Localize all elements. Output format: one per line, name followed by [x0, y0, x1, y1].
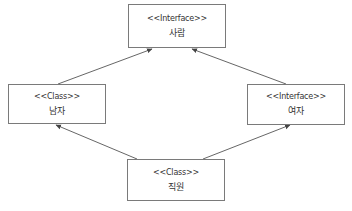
class-box-male: <<Class>> 남자: [8, 84, 106, 124]
arrow-staff-to-female: [203, 125, 290, 159]
arrow-female-to-person: [192, 49, 286, 84]
class-box-staff: <<Class>> 직원: [127, 159, 225, 201]
entity-name: 사람: [169, 27, 185, 40]
interface-box-person: <<Interface>> 사람: [128, 4, 226, 48]
arrow-male-to-person: [58, 49, 152, 84]
stereotype-label: <<Interface>>: [147, 13, 207, 24]
stereotype-label: <<Class>>: [34, 91, 80, 102]
uml-diagram-canvas: <<Interface>> 사람 <<Class>> 남자 <<Interfac…: [0, 0, 352, 211]
entity-name: 남자: [49, 105, 65, 118]
stereotype-label: <<Interface>>: [266, 91, 326, 102]
entity-name: 직원: [168, 181, 184, 194]
arrow-staff-to-male: [56, 125, 137, 159]
interface-box-female: <<Interface>> 여자: [247, 84, 345, 125]
stereotype-label: <<Class>>: [153, 167, 199, 178]
entity-name: 여자: [288, 105, 304, 118]
